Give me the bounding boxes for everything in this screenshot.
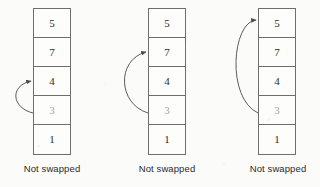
stage-2-cell-2-value: 4 xyxy=(164,76,170,87)
stage-1-cell-2-value: 4 xyxy=(49,76,55,87)
stage-3-cell-1-value: 7 xyxy=(274,47,280,58)
stage-2-cell-1-value: 7 xyxy=(164,47,170,58)
stage-1-cell-3-value: 3 xyxy=(49,105,55,116)
stage-1-cell-2: 4 xyxy=(34,67,70,96)
stage-1-cell-0: 5 xyxy=(34,9,70,38)
stage-2: 5 7 4 3 1 Not swapped xyxy=(106,0,212,187)
stage-3-cell-3: 3 xyxy=(259,96,295,125)
stage-1-cell-1: 7 xyxy=(34,38,70,67)
stage-1-cell-4-value: 1 xyxy=(49,134,55,145)
stage-2-cell-4-value: 1 xyxy=(164,134,170,145)
stage-3-cell-0: 5 xyxy=(259,9,295,38)
stage-3-cell-1: 7 xyxy=(259,38,295,67)
stage-1-caption: Not swapped xyxy=(0,163,112,174)
stage-3-array: 5 7 4 3 1 xyxy=(258,8,296,155)
stage-3-cell-4: 1 xyxy=(259,125,295,154)
stage-1: 5 7 4 3 1 Not swapped xyxy=(0,0,106,187)
bubble-sort-diagram: 5 7 4 3 1 Not swapped 5 7 xyxy=(0,0,320,187)
stage-3-cell-2: 4 xyxy=(259,67,295,96)
stage-2-cell-2: 4 xyxy=(149,67,185,96)
stage-1-cell-3: 3 xyxy=(34,96,70,125)
stage-2-cell-0: 5 xyxy=(149,9,185,38)
stage-3-cell-3-value: 3 xyxy=(274,105,280,116)
stage-1-cell-4: 1 xyxy=(34,125,70,154)
stage-3-cell-4-value: 1 xyxy=(274,134,280,145)
stage-1-cell-0-value: 5 xyxy=(49,18,55,29)
stage-2-cell-3: 3 xyxy=(149,96,185,125)
stage-1-cell-1-value: 7 xyxy=(49,47,55,58)
stage-2-cell-0-value: 5 xyxy=(164,18,170,29)
stage-3: 5 7 4 3 1 Not swapped xyxy=(212,0,320,187)
stage-1-array: 5 7 4 3 1 xyxy=(33,8,71,155)
stage-2-array: 5 7 4 3 1 xyxy=(148,8,186,155)
stage-2-caption: Not swapped xyxy=(107,163,227,174)
stage-2-cell-3-value: 3 xyxy=(164,105,170,116)
stage-3-cell-2-value: 4 xyxy=(274,76,280,87)
stage-2-cell-1: 7 xyxy=(149,38,185,67)
stage-3-cell-0-value: 5 xyxy=(274,18,280,29)
stage-3-caption: Not swapped xyxy=(218,163,320,174)
stage-2-cell-4: 1 xyxy=(149,125,185,154)
